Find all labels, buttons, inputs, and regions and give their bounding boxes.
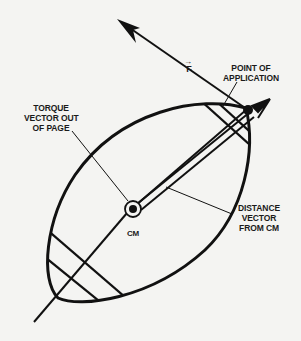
torque-label-line-2: VECTOR OUT [24,113,78,123]
torque-label: TORQUE VECTOR OUT OF PAGE [24,103,78,133]
force-arrowhead-icon [117,19,140,43]
point-of-application-label: POINT OF APPLICATION [218,63,284,83]
distance-leader-line [166,187,232,214]
distance-vector-label: DISTANCE VECTOR FROM CM [232,203,286,233]
distance-label-line-1: DISTANCE [232,203,286,213]
distance-label-line-2: VECTOR [232,213,286,223]
vector-arrow-icon: → [184,58,192,66]
cm-dot [129,205,137,213]
distance-label-line-3: FROM CM [232,223,286,233]
poa-label-line-1: POINT OF [218,63,284,73]
cm-label: CM [121,229,145,239]
torque-label-line-1: TORQUE [24,103,78,113]
torque-label-line-3: OF PAGE [24,123,78,133]
torque-diagram [0,0,301,341]
poa-label-line-2: APPLICATION [218,73,284,83]
distance-arrowhead-icon [252,99,270,118]
force-label: → F [183,64,195,74]
